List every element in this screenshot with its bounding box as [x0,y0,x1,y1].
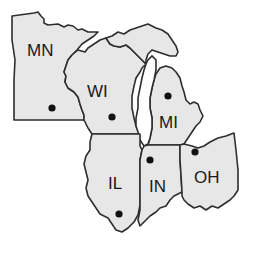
capital-dot-mi [164,92,171,99]
capital-dot-wi [108,113,115,120]
capital-dot-mn [48,104,55,111]
state-mi-lower [148,66,203,145]
midwest-map: MN WI MI IL IN OH [0,0,254,254]
capital-dot-il [115,210,122,217]
capital-dot-oh [191,148,198,155]
state-label-mi: MI [159,113,178,132]
capital-dot-in [146,156,153,163]
state-label-mn: MN [27,41,53,60]
state-label-oh: OH [194,168,220,187]
state-label-il: IL [108,174,122,193]
state-label-wi: WI [87,82,108,101]
state-label-in: IN [149,177,166,196]
